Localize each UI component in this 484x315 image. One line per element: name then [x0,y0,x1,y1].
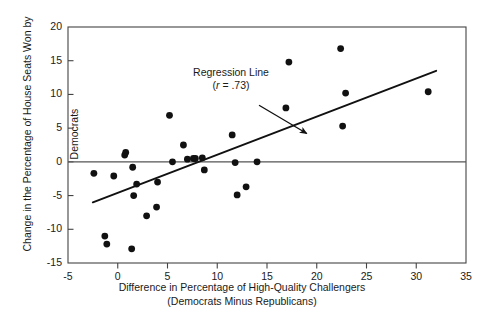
x-axis-label-line2: (Democrats Minus Republicans) [0,295,484,309]
y-tick-label: -15 [22,256,62,268]
data-point [199,154,206,161]
data-point [130,192,137,199]
data-point [90,170,97,177]
axis-ticks [68,61,416,269]
data-point [166,112,173,119]
data-point [254,158,261,165]
data-point [192,155,199,162]
data-point [285,59,292,66]
data-point [283,105,290,112]
y-tick-label: -10 [22,222,62,234]
y-tick-label: 0 [22,155,62,167]
data-point [232,159,239,166]
data-point [342,90,349,97]
plot-frame [68,27,466,263]
regression-annotation-line2: (r = .73) [176,79,286,92]
y-tick-label: 5 [22,121,62,133]
data-point [234,191,241,198]
regression-annotation: Regression Line (r = .73) [176,66,286,91]
data-point [201,167,208,174]
data-point [425,88,432,95]
x-axis-label-line1: Difference in Percentage of High-Quality… [0,281,484,295]
data-point [122,149,129,156]
data-point [169,158,176,165]
data-point [229,131,236,138]
y-tick-label: 20 [22,20,62,32]
r-value-text: = .73) [219,79,249,91]
data-point [184,156,191,163]
data-point [103,241,110,248]
data-point [133,181,140,188]
data-point [143,212,150,219]
y-tick-label: -5 [22,189,62,201]
data-point [180,142,187,149]
data-point [337,45,344,52]
y-tick-label: 15 [22,54,62,66]
plot-canvas [0,0,484,315]
data-point [154,179,161,186]
data-point [128,245,135,252]
data-point [339,123,346,130]
data-point [129,164,136,171]
regression-annotation-line1: Regression Line [176,66,286,79]
data-point [243,183,250,190]
scatter-plot-figure: Change in the Percentage of House Seats … [0,0,484,315]
data-point [153,204,160,211]
data-point [110,173,117,180]
x-axis-label: Difference in Percentage of High-Quality… [0,281,484,308]
data-point [101,233,108,240]
y-tick-label: 10 [22,87,62,99]
